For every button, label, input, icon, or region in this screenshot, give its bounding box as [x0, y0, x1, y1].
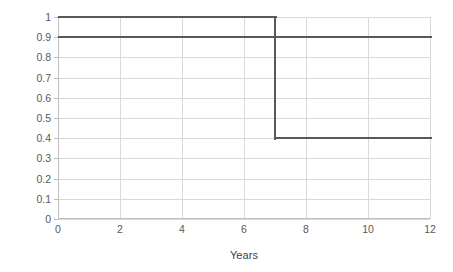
gridline-horizontal [58, 219, 430, 220]
plot-area [58, 17, 430, 219]
tick-mark [54, 199, 58, 200]
y-axis-line [58, 17, 59, 220]
tick-mark [54, 179, 58, 180]
series-segment-horizontal [58, 36, 432, 38]
gridline-vertical [120, 17, 121, 219]
series-segment-horizontal [275, 137, 432, 139]
gridline-vertical [244, 17, 245, 219]
x-tick-label: 8 [286, 224, 326, 235]
tick-mark [54, 57, 58, 58]
tick-mark [54, 219, 58, 220]
x-axis-line [58, 218, 430, 219]
x-tick-label: 4 [162, 224, 202, 235]
x-tick-label: 0 [38, 224, 78, 235]
tick-mark [54, 138, 58, 139]
x-tick-label: 6 [224, 224, 264, 235]
tick-mark [54, 118, 58, 119]
tick-mark [54, 98, 58, 99]
x-tick-label: 10 [348, 224, 388, 235]
gridline-vertical [306, 17, 307, 219]
gridline-vertical [182, 17, 183, 219]
x-tick-label: 2 [100, 224, 140, 235]
tick-mark [54, 78, 58, 79]
series-segment-horizontal [58, 16, 277, 18]
gridline-vertical [368, 17, 369, 219]
x-tick-label: 12 [410, 224, 450, 235]
chart-container: Quality of Life Years 00.10.20.30.40.50.… [0, 0, 453, 272]
gridline-vertical [430, 17, 431, 219]
tick-mark [54, 158, 58, 159]
